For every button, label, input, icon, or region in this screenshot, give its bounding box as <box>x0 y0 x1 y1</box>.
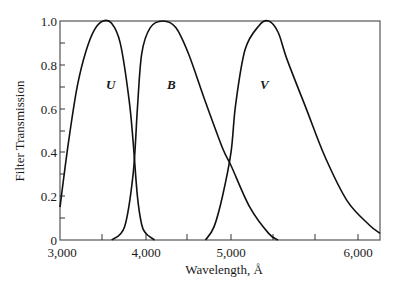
filter-transmission-chart: 0 0.2 0.4 0.6 0.8 1.0 3,000 4,000 5,000 … <box>0 0 402 286</box>
curve-b <box>112 21 278 240</box>
series-label-b: B <box>166 77 176 92</box>
curve-u <box>60 20 155 240</box>
y-tick-label: 0.8 <box>41 58 57 73</box>
x-axis-label: Wavelength, Å <box>185 262 263 277</box>
x-tick-label: 3,000 <box>47 245 76 260</box>
y-tick-labels: 0 0.2 0.4 0.6 0.8 1.0 <box>41 14 58 248</box>
x-tick-label: 5,000 <box>216 245 245 260</box>
curves <box>60 20 380 240</box>
series-label-v: V <box>260 77 270 92</box>
y-axis-label: Filter Transmission <box>12 80 27 181</box>
curve-v <box>206 21 381 240</box>
x-tick-label: 4,000 <box>131 245 160 260</box>
series-label-u: U <box>106 77 116 92</box>
y-tick-label: 1.0 <box>41 14 57 29</box>
x-axis <box>102 234 358 240</box>
x-tick-label: 6,000 <box>343 245 372 260</box>
x-tick-labels: 3,000 4,000 5,000 6,000 <box>47 245 372 260</box>
y-tick-label: 0.6 <box>41 102 58 117</box>
y-tick-label: 0.2 <box>41 189 57 204</box>
y-tick-label: 0.4 <box>41 145 58 160</box>
